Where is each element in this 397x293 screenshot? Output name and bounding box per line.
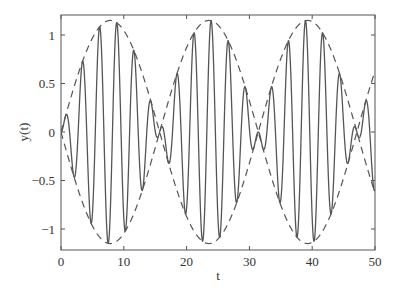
y-tick-label: 1: [49, 28, 56, 43]
x-tick-label: 10: [117, 254, 130, 269]
y-tick-label: −0.5: [31, 173, 55, 188]
y-tick-label: 0: [49, 125, 56, 140]
x-tick-label: 40: [306, 254, 319, 269]
plot-area: [61, 15, 375, 250]
x-axis-label: t: [216, 268, 220, 283]
chart: 01020304050 10.50−0.5−1 t y(t): [0, 0, 397, 293]
y-tick-label: 0.5: [39, 76, 55, 91]
x-tick-label: 50: [369, 254, 382, 269]
y-tick-label: −1: [41, 222, 55, 237]
x-tick-label: 0: [58, 254, 65, 269]
x-tick-label: 20: [180, 254, 193, 269]
y-axis-label: y(t): [16, 123, 31, 142]
x-tick-label: 30: [243, 254, 256, 269]
signal-line: [61, 21, 375, 244]
